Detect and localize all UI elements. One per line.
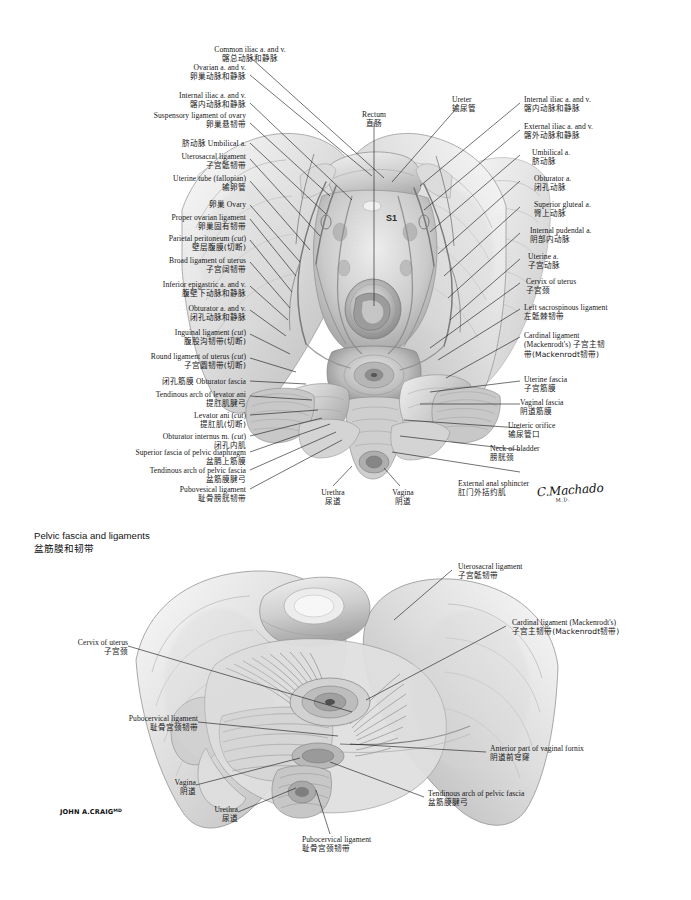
label-pubocervical-ligament-left: Pubocervical ligament 耻骨宫颈韧带	[58, 714, 198, 733]
label-parietal-peritoneum-en: Parietal peritoneum (cut)	[36, 234, 246, 243]
label-cervix-of-uterus-zh: 子宫颈	[526, 286, 686, 295]
label-left-sacrospinous-ligament-zh: 左骶棘韧带	[524, 312, 691, 321]
label-tendinous-arch-pelvic-fascia-fig2: Tendinous arch of pelvic fascia 盆筋膜腱弓	[428, 789, 608, 808]
label-cardinal-ligament-fig1-en2: (Mackenrodt's) 子宫主韧	[524, 340, 691, 349]
figure2-caption: Pelvic fascia and ligaments 盆筋膜和韧带	[34, 530, 150, 555]
label-cardinal-ligament-fig2-en: Cardinal ligament (Mackenrodt's)	[512, 618, 691, 627]
label-uterine-a-en: Uterine a.	[528, 252, 688, 261]
label-common-iliac: Common iliac a. and v. 髂总动脉和静脉	[150, 45, 350, 64]
label-urethra-fig1-en: Urethra	[303, 488, 363, 497]
label-obturator-av: Obturator a. and v. 闭孔动脉和静脉	[46, 304, 246, 323]
label-round-ligament: Round ligament of uterus (cut) 子宫圆韧带(切断)	[36, 352, 246, 371]
label-urethra-fig1-zh: 尿道	[303, 497, 363, 506]
label-broad-ligament-zh: 子宫阔韧带	[36, 265, 246, 274]
signature-craig-suffix: MD	[113, 808, 122, 813]
label-levator-ani: Levator ani (cut) 提肛肌(切断)	[46, 411, 246, 430]
label-umbilical-a-right: Umbilical a. 脐动脉	[532, 148, 691, 167]
label-tendinous-arch-pelvic-fascia-fig2-en: Tendinous arch of pelvic fascia	[428, 789, 608, 798]
anatomy-plate: Common iliac a. and v. 髂总动脉和静脉 Ovarian a…	[0, 0, 691, 900]
label-cervix-of-uterus-fig2-en: Cervix of uterus	[8, 638, 128, 647]
label-umbilical-a-left-en: 脐动脉 Umbilical a.	[46, 139, 246, 148]
label-pubocervical-ligament-bottom-zh: 耻骨宫颈韧带	[302, 844, 462, 853]
label-tendinous-arch-levator-ani-en: Tendinous arch of levator ani	[36, 390, 246, 399]
label-rectum: Rectum 直肠	[344, 110, 404, 129]
label-uterine-a-zh: 子宫动脉	[528, 261, 688, 270]
label-neck-of-bladder-zh: 膀胱颈	[490, 453, 650, 462]
label-uterine-tube-zh: 输卵管	[36, 183, 246, 192]
label-internal-iliac-right: Internal iliac a. and v. 髂内动脉和静脉	[524, 95, 691, 114]
label-broad-ligament-en: Broad ligament of uterus	[36, 256, 246, 265]
label-parietal-peritoneum-zh: 壁层腹膜(切断)	[36, 243, 246, 252]
label-ureter-en: Ureter	[452, 95, 532, 104]
label-proper-ovarian-ligament-zh: 卵巢固有韧带	[36, 222, 246, 231]
signature-craig: JOHN A.CRAIGMD	[60, 808, 122, 816]
label-vagina-fig2-zh: 阴道	[126, 787, 196, 796]
label-parietal-peritoneum: Parietal peritoneum (cut) 壁层腹膜(切断)	[36, 234, 246, 253]
label-superior-gluteal-zh: 臀上动脉	[534, 209, 691, 218]
label-internal-pudendal-en: Internal pudendal a.	[530, 226, 690, 235]
label-rectum-en: Rectum	[344, 110, 404, 119]
label-internal-pudendal: Internal pudendal a. 阴部内动脉	[530, 226, 690, 245]
label-urethra-fig1: Urethra 尿道	[303, 488, 363, 507]
label-external-iliac-right: External iliac a. and v. 髂外动脉和静脉	[524, 122, 691, 141]
label-cervix-of-uterus: Cervix of uterus 子宫颈	[526, 277, 686, 296]
label-pubovesical-ligament-en: Pubovesical ligament	[46, 485, 246, 494]
label-pubovesical-ligament-zh: 耻骨膀胱韧带	[46, 494, 246, 503]
label-ureteric-orifice-zh: 输尿管口	[508, 430, 668, 439]
label-tendinous-arch-pelvic-fascia-fig2-zh: 盆筋膜腱弓	[428, 798, 608, 807]
label-suspensory-ligament-ovary-zh: 卵巢悬韧带	[26, 120, 246, 129]
label-levator-ani-zh: 提肛肌(切断)	[46, 420, 246, 429]
label-vagina-fig1-zh: 阴道	[373, 497, 433, 506]
label-ovary: 卵巢 Ovary	[66, 200, 246, 209]
label-internal-iliac-right-en: Internal iliac a. and v.	[524, 95, 691, 104]
signature-craig-name: JOHN A.CRAIG	[60, 808, 113, 816]
label-levator-ani-en: Levator ani (cut)	[46, 411, 246, 420]
label-tendinous-arch-pelvic-fascia-zh: 盆筋膜腱弓	[36, 475, 246, 484]
label-broad-ligament: Broad ligament of uterus 子宫阔韧带	[36, 256, 246, 275]
vertebra-marker-s1: S1	[386, 213, 397, 223]
label-neck-of-bladder-en: Neck of bladder	[490, 444, 650, 453]
label-uterosacral-ligament-fig2-zh: 子宫骶韧带	[458, 571, 638, 580]
label-ureter-zh: 输尿管	[452, 104, 532, 113]
label-vagina-fig2: Vagina 阴道	[126, 778, 196, 797]
label-uterine-fascia-en: Uterine fascia	[524, 375, 684, 384]
label-uterosacral-ligament-fig2-en: Uterosacral ligament	[458, 562, 638, 571]
label-cervix-of-uterus-en: Cervix of uterus	[526, 277, 686, 286]
label-uterine-fascia: Uterine fascia 子宫筋膜	[524, 375, 684, 394]
label-obturator-fascia: 闭孔筋膜 Obturator fascia	[46, 377, 246, 386]
label-cervix-of-uterus-fig2-zh: 子宫颈	[8, 647, 128, 656]
label-obturator-a-right-zh: 闭孔动脉	[534, 183, 691, 192]
label-internal-iliac-left-en: Internal iliac a. and v.	[46, 91, 246, 100]
label-vagina-fig1-en: Vagina	[373, 488, 433, 497]
label-inferior-epigastric: Inferior epigastric a. and v. 腹壁下动脉和静脉	[26, 280, 246, 299]
label-tendinous-arch-pelvic-fascia-en: Tendinous arch of pelvic fascia	[36, 466, 246, 475]
label-pubocervical-ligament-left-zh: 耻骨宫颈韧带	[58, 723, 198, 732]
label-suspensory-ligament-ovary-en: Suspensory ligament of ovary	[26, 111, 246, 120]
label-ureteric-orifice: Ureteric orifice 输尿管口	[508, 421, 668, 440]
label-rectum-zh: 直肠	[344, 119, 404, 128]
label-anterior-part-vaginal-fornix: Anterior part of vaginal fornix 阴道前穹窿	[490, 744, 680, 763]
label-internal-iliac-left: Internal iliac a. and v. 髂内动脉和静脉	[46, 91, 246, 110]
label-vaginal-fascia-en: Vaginal fascia	[520, 398, 680, 407]
label-internal-pudendal-zh: 阴部内动脉	[530, 235, 690, 244]
label-obturator-internus-en: Obturator internus m. (cut)	[36, 432, 246, 441]
label-internal-iliac-right-zh: 髂内动脉和静脉	[524, 104, 691, 113]
label-inguinal-ligament-en: Inguinal ligament (cut)	[46, 328, 246, 337]
label-cardinal-ligament-fig1-zh: 带(Mackenrodt韧带)	[524, 350, 691, 359]
label-obturator-fascia-en: 闭孔筋膜 Obturator fascia	[46, 377, 246, 386]
label-umbilical-a-left: 脐动脉 Umbilical a.	[46, 139, 246, 148]
label-urethra-fig2: Urethra 尿道	[168, 805, 238, 824]
label-tendinous-arch-levator-ani-zh: 提肛肌腱弓	[36, 399, 246, 408]
label-uterine-a: Uterine a. 子宫动脉	[528, 252, 688, 271]
label-superior-gluteal-en: Superior gluteal a.	[534, 200, 691, 209]
label-cervix-of-uterus-fig2: Cervix of uterus 子宫颈	[8, 638, 128, 657]
label-round-ligament-en: Round ligament of uterus (cut)	[36, 352, 246, 361]
label-uterine-tube-en: Uterine tube (fallopian)	[36, 174, 246, 183]
label-umbilical-a-right-en: Umbilical a.	[532, 148, 691, 157]
label-cardinal-ligament-fig2-zh: 子宫主韧带(Mackenrodt韧带)	[512, 627, 691, 636]
label-proper-ovarian-ligament: Proper ovarian ligament 卵巢固有韧带	[36, 213, 246, 232]
label-obturator-a-right: Obturator a. 闭孔动脉	[534, 174, 691, 193]
label-vaginal-fascia: Vaginal fascia 阴道筋膜	[520, 398, 680, 417]
label-uterosacral-ligament-zh: 子宫骶韧带	[46, 161, 246, 170]
label-inguinal-ligament: Inguinal ligament (cut) 腹股沟韧带(切断)	[46, 328, 246, 347]
